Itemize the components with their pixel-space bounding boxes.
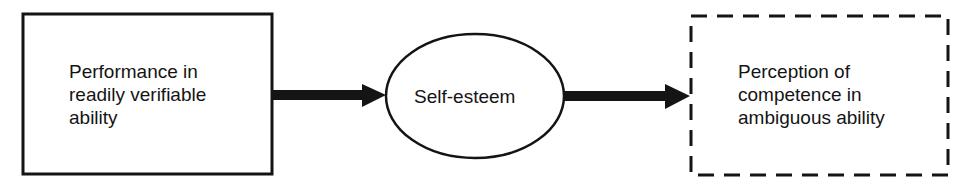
perception-label: Perception of competence in ambiguous ab… <box>738 60 885 129</box>
performance-label: Performance in readily verifiable abilit… <box>69 60 206 129</box>
arrow-self-esteem-to-perception <box>564 84 690 109</box>
self-esteem-label: Self-esteem <box>414 85 515 108</box>
arrow-performance-to-self-esteem <box>272 84 386 107</box>
